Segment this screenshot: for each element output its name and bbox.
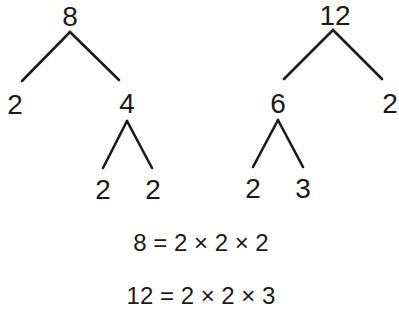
factor-tree-8: 8 2 4 2 2 — [7, 1, 161, 205]
tree2-leaf-left: 2 — [245, 173, 261, 204]
edge-6-to-2 — [253, 120, 278, 167]
equation-8: 8 = 2 × 2 × 2 — [133, 229, 268, 256]
factor-tree-12: 12 6 2 2 3 — [245, 0, 398, 204]
edge-8-to-4 — [70, 32, 119, 80]
edge-8-to-2 — [22, 32, 70, 81]
equation-12: 12 = 2 × 2 × 3 — [127, 282, 276, 309]
factor-trees-diagram: 8 2 4 2 2 12 6 2 2 3 8 = 2 × 2 × 2 12 = … — [0, 0, 399, 314]
edge-12-to-2 — [333, 30, 382, 79]
tree1-right-child: 4 — [119, 88, 135, 119]
edge-12-to-6 — [284, 30, 333, 79]
tree1-leaf-right: 2 — [145, 174, 161, 205]
tree2-left-child: 6 — [270, 88, 286, 119]
tree2-right-child: 2 — [382, 88, 398, 119]
tree2-root: 12 — [319, 0, 350, 31]
tree2-leaf-right: 3 — [295, 173, 311, 204]
edge-4-to-2b — [127, 121, 152, 168]
edge-6-to-3 — [278, 120, 303, 167]
edge-4-to-2a — [103, 121, 127, 168]
tree1-root: 8 — [62, 1, 78, 32]
tree1-leaf-left: 2 — [95, 174, 111, 205]
tree1-left-child: 2 — [7, 89, 23, 120]
